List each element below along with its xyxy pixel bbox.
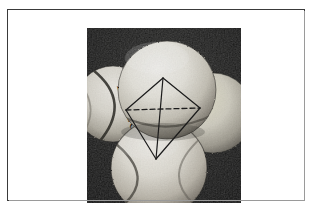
- photograph-tennis-balls: DUNLOP: [87, 28, 241, 203]
- photo-overlay-grain: [87, 28, 241, 203]
- photo-canvas: DUNLOP: [87, 28, 241, 203]
- page-root: DUNLOP: [0, 0, 313, 210]
- figure-frame: DUNLOP: [7, 9, 305, 201]
